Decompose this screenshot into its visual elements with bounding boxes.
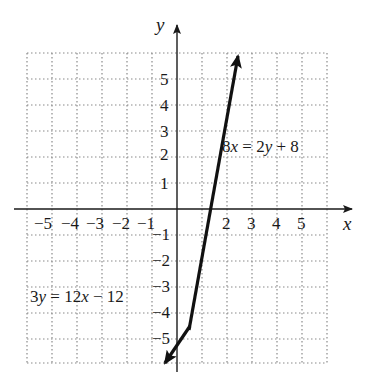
svg-text:2: 2 — [160, 145, 169, 164]
svg-text:5: 5 — [160, 70, 169, 89]
svg-text:−2: −2 — [112, 214, 130, 233]
svg-text:−3: −3 — [86, 214, 104, 233]
svg-text:−2: −2 — [152, 251, 170, 270]
x-axis-label: x — [342, 213, 352, 234]
y-axis-label: y — [154, 14, 165, 35]
svg-text:−5: −5 — [152, 329, 170, 348]
svg-text:−1: −1 — [152, 225, 170, 244]
svg-text:−5: −5 — [34, 214, 52, 233]
equation-label-bottom: 3y = 12x − 12 — [30, 287, 124, 306]
svg-text:−4: −4 — [61, 214, 80, 233]
svg-text:4: 4 — [272, 214, 281, 233]
svg-text:−4: −4 — [152, 303, 171, 322]
svg-text:5: 5 — [297, 214, 306, 233]
svg-text:−3: −3 — [152, 277, 170, 296]
svg-text:2: 2 — [222, 214, 231, 233]
graph-line — [189, 56, 238, 330]
svg-text:3: 3 — [247, 214, 256, 233]
svg-text:3: 3 — [160, 122, 169, 141]
equation-label-top: 8x = 2y + 8 — [222, 137, 299, 156]
coordinate-plane: x y −5 −4 −3 −2 −1 2 3 4 5 5 4 3 2 1 −1 … — [0, 0, 372, 373]
svg-text:1: 1 — [160, 174, 169, 193]
svg-text:4: 4 — [160, 96, 169, 115]
